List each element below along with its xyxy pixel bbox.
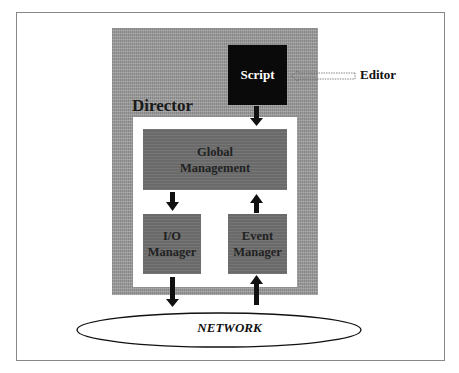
network-to-event-arrow	[250, 275, 263, 305]
diagram-connectors	[0, 0, 459, 373]
global-to-io-arrow	[166, 192, 179, 211]
io-to-network-arrow	[166, 277, 179, 307]
editor-to-script-arrow	[291, 71, 355, 81]
event-to-global-arrow	[250, 194, 263, 213]
script-to-global-arrow	[250, 106, 263, 126]
network-label: NETWORK	[0, 320, 459, 336]
